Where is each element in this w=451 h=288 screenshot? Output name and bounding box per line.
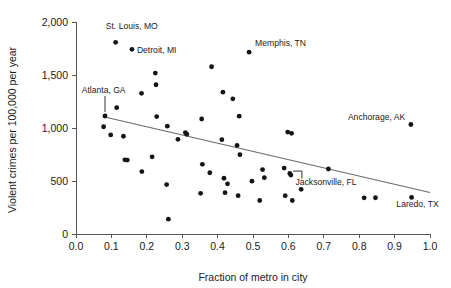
data-point (209, 64, 214, 69)
data-point (299, 187, 304, 192)
data-point (282, 166, 287, 171)
data-point (373, 195, 378, 200)
x-tick-label: 0.1 (104, 240, 119, 252)
data-point (153, 71, 158, 76)
data-point (125, 158, 130, 163)
data-point (166, 217, 171, 222)
x-tick-label: 0.0 (69, 240, 84, 252)
x-tick-label: 0.9 (387, 240, 402, 252)
data-point (103, 114, 108, 119)
data-point (165, 124, 170, 129)
x-tick-label: 0.3 (175, 240, 190, 252)
data-point (288, 173, 293, 178)
data-point (154, 114, 159, 119)
y-axis-ticks: 05001,0001,5002,000 (42, 16, 76, 240)
data-point (222, 176, 227, 181)
y-tick-label: 1,500 (42, 69, 68, 81)
x-tick-label: 0.8 (352, 240, 367, 252)
annotation-label: Laredo, TX (396, 199, 439, 209)
x-tick-label: 0.6 (281, 240, 296, 252)
y-tick-label: 2,000 (42, 16, 68, 28)
y-axis-title: Violent crimes per 100,000 per year (6, 46, 18, 213)
data-point (184, 132, 189, 137)
annotation-label: Memphis, TN (255, 38, 306, 48)
x-axis-title: Fraction of metro in city (198, 271, 308, 283)
x-axis-group: 0.00.10.20.30.40.50.60.70.80.91.0 Fracti… (69, 234, 438, 283)
data-point (223, 190, 228, 195)
data-point (230, 96, 235, 101)
data-point (219, 137, 224, 142)
chart-canvas: 05001,0001,5002,000 Violent crimes per 1… (0, 0, 451, 288)
data-point (221, 90, 226, 95)
data-point (113, 40, 118, 45)
scatter-chart-figure: 05001,0001,5002,000 Violent crimes per 1… (0, 0, 451, 288)
data-point (362, 195, 367, 200)
data-point (257, 198, 262, 203)
data-point (154, 82, 159, 87)
data-point (236, 193, 241, 198)
data-point (199, 117, 204, 122)
y-tick-label: 1,000 (42, 122, 68, 134)
data-point (101, 124, 106, 129)
annotation-label: Anchorage, AK (348, 112, 406, 122)
data-point (250, 179, 255, 184)
data-point (262, 175, 267, 180)
data-point (289, 131, 294, 136)
annotations-group: St. Louis, MODetroit, MIMemphis, TNAtlan… (82, 21, 439, 209)
data-point (130, 47, 135, 52)
data-point (121, 134, 126, 139)
data-point (176, 137, 181, 142)
data-point (283, 193, 288, 198)
x-axis-ticks: 0.00.10.20.30.40.50.60.70.80.91.0 (69, 234, 438, 252)
data-point (235, 143, 240, 148)
data-point (150, 154, 155, 159)
data-point (237, 114, 242, 119)
annotation-label: Detroit, MI (137, 45, 177, 55)
x-tick-label: 0.7 (316, 240, 331, 252)
x-tick-label: 0.5 (246, 240, 261, 252)
data-points-group (101, 40, 414, 222)
x-tick-label: 1.0 (423, 240, 438, 252)
data-point (247, 50, 252, 55)
data-point (260, 167, 265, 172)
data-point (207, 170, 212, 175)
data-point (408, 122, 413, 127)
data-point (139, 169, 144, 174)
data-point (225, 181, 230, 186)
x-tick-label: 0.4 (210, 240, 225, 252)
annotation-label: Atlanta, GA (82, 85, 126, 95)
y-axis-group: 05001,0001,5002,000 Violent crimes per 1… (6, 16, 76, 240)
annotation-label: St. Louis, MO (106, 21, 158, 31)
annotation-label: Jacksonville, FL (295, 177, 356, 187)
y-tick-label: 500 (50, 175, 68, 187)
data-point (290, 198, 295, 203)
data-point (164, 182, 169, 187)
data-point (108, 132, 113, 137)
data-point (198, 191, 203, 196)
data-point (200, 162, 205, 167)
data-point (326, 167, 331, 172)
y-tick-label: 0 (62, 228, 68, 240)
data-point (139, 91, 144, 96)
data-point (114, 105, 119, 110)
data-point (238, 152, 243, 157)
x-tick-label: 0.2 (139, 240, 154, 252)
